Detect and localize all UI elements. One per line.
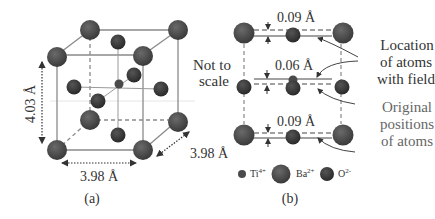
legend-o-swatch (320, 167, 334, 181)
ba-atom-corner (133, 46, 153, 66)
ba-atom (234, 125, 255, 146)
ba-atom-corner (168, 20, 188, 40)
o-atom (237, 80, 252, 95)
caption-a: (a) (84, 191, 100, 207)
height-label: 4.03 Å (23, 84, 38, 123)
ti-atom-center (115, 80, 124, 89)
panel-a-unit-cell: 4.03 Å 3.98 Å 3.98 Å Not to scale (a) (23, 20, 231, 207)
caption-b: (b) (282, 191, 299, 207)
o-atom-right (154, 82, 169, 97)
row-top: 0.09 Å (234, 10, 354, 44)
annotation-original-line2: positions (380, 116, 434, 132)
perovskite-diagram: 4.03 Å 3.98 Å 3.98 Å Not to scale (a) 0.… (0, 0, 435, 219)
o-atom (286, 81, 301, 96)
o-atom (286, 28, 301, 43)
o-atom-bottom (111, 128, 126, 143)
ba-atom-corner (80, 110, 100, 130)
annotation-field-line1: Location (380, 37, 434, 53)
legend-ti-swatch (238, 170, 246, 178)
ba-atom (333, 125, 354, 146)
legend-ti-label: Ti4+ (250, 167, 266, 179)
ba-atom-corner (168, 112, 188, 132)
not-to-scale-line2: scale (199, 73, 229, 89)
not-to-scale-line1: Not to (193, 57, 231, 73)
ba-atom-corner (133, 140, 153, 160)
annotation-field-line2: of atoms (380, 54, 432, 70)
legend-o-label: O2- (338, 167, 352, 179)
ba-atom (234, 23, 255, 44)
ba-atom-corner (47, 140, 67, 160)
o-atom (335, 80, 350, 95)
o-atom-front (91, 94, 106, 109)
depth-label: 3.98 Å (190, 146, 229, 161)
ba-atom-corner (47, 47, 67, 67)
row-bottom: 0.09 Å (234, 114, 354, 147)
panel-b-displacement: 0.09 Å 0.06 Å 0.09 Å (234, 10, 435, 207)
depth-arrow (157, 132, 189, 156)
annotation-original-line1: Original (382, 99, 432, 115)
legend: Ti4+ Ba2+ O2- (238, 165, 352, 184)
annotation-original-line3: of atoms (381, 133, 433, 149)
o-atom (286, 130, 301, 145)
ba-atom-corner (80, 20, 100, 40)
o-atom-top (111, 35, 126, 50)
o-atom-back (127, 68, 142, 83)
legend-ba-swatch (272, 165, 291, 184)
displacement-label-middle: 0.06 Å (275, 58, 314, 73)
legend-ba-label: Ba2+ (296, 167, 315, 179)
o-atom-left (67, 80, 82, 95)
annotation-field-line3: with field (377, 71, 435, 87)
displacement-label-top: 0.09 Å (277, 10, 316, 25)
width-label: 3.98 Å (80, 169, 119, 184)
ba-atom (333, 23, 354, 44)
displacement-label-bottom: 0.09 Å (277, 114, 316, 129)
row-middle: 0.06 Å (237, 58, 350, 96)
